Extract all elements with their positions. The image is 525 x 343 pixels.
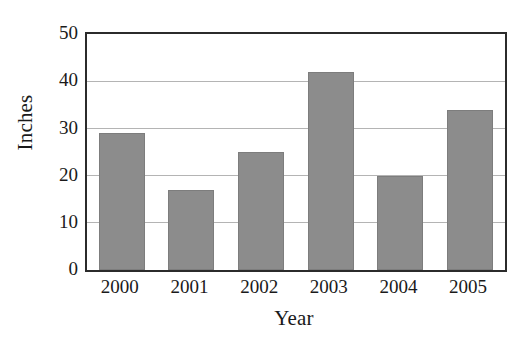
x-axis-title: Year	[85, 306, 503, 331]
bars-layer	[87, 34, 505, 270]
bar-2003	[308, 72, 354, 270]
bar-chart-figure: Inches 50 40 30 20 10 0 2000 2001 2002 2…	[0, 0, 525, 343]
x-tick-label: 2005	[434, 276, 502, 298]
y-tick-label: 0	[40, 259, 78, 278]
bar-2005	[447, 110, 493, 270]
y-tick-label: 20	[40, 165, 78, 184]
y-tick-label: 50	[40, 23, 78, 42]
bar-2000	[99, 133, 145, 270]
bar-2004	[377, 176, 423, 270]
x-tick-label: 2002	[225, 276, 293, 298]
x-tick-label: 2001	[155, 276, 223, 298]
y-axis-title: Inches	[13, 68, 38, 178]
x-tick-label: 2004	[364, 276, 432, 298]
bar-2002	[238, 152, 284, 270]
y-tick-label: 40	[40, 70, 78, 89]
x-tick-label: 2000	[86, 276, 154, 298]
x-axis-tick-labels: 2000 2001 2002 2003 2004 2005	[85, 276, 503, 302]
plot-area	[85, 32, 507, 272]
bar-2001	[168, 190, 214, 270]
y-axis-tick-labels: 50 40 30 20 10 0	[40, 0, 78, 343]
y-tick-label: 10	[40, 212, 78, 231]
y-tick-label: 30	[40, 118, 78, 137]
x-tick-label: 2003	[295, 276, 363, 298]
